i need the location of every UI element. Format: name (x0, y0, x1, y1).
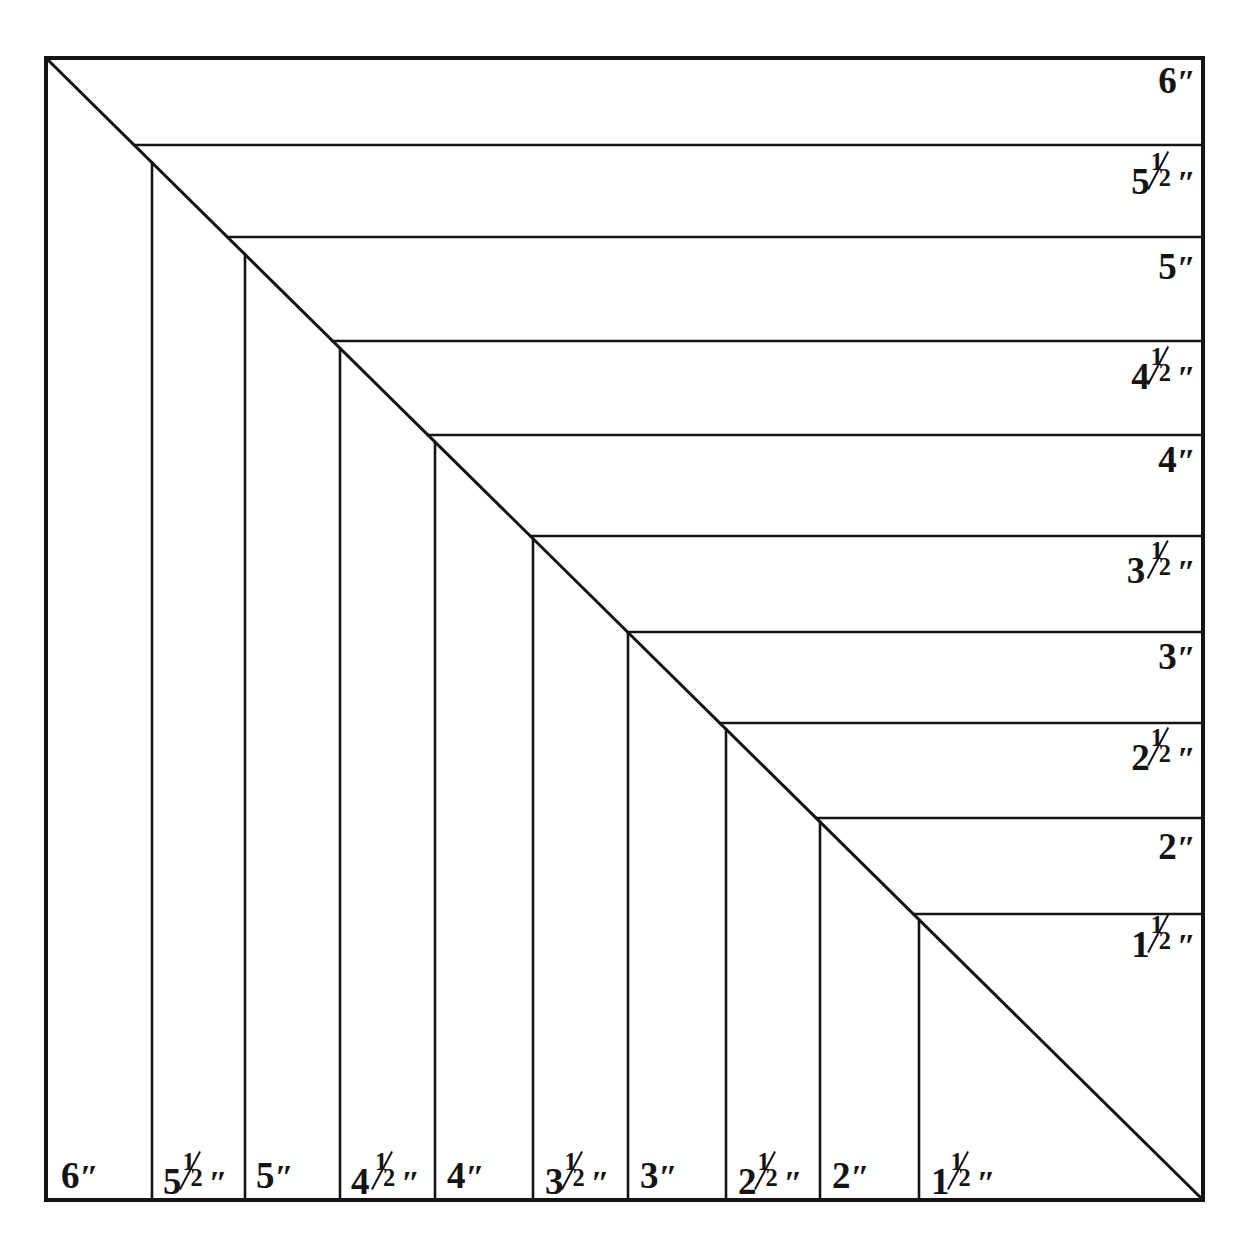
main-diagonal (46, 58, 1203, 1200)
chart-line-art (0, 0, 1237, 1239)
chart-lines (46, 58, 1203, 1200)
square-size-chart-figure: 6″512″5″412″4″312″3″212″2″112″ 6″512″5″4… (0, 0, 1237, 1239)
